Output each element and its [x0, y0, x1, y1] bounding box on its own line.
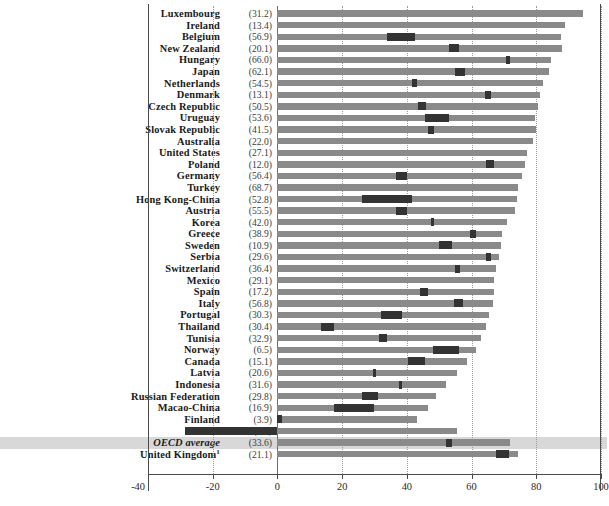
segment-marker [373, 369, 376, 377]
segment-marker [396, 172, 407, 180]
value-bar [277, 115, 534, 121]
chart-row: Hong Kong-China(52.8) [0, 194, 607, 206]
x-tick-100 [601, 474, 602, 479]
segment-marker [439, 241, 452, 249]
value-bar [277, 416, 416, 422]
segment-marker [185, 427, 277, 435]
bar-layer [148, 78, 601, 90]
value-bar [277, 34, 560, 40]
x-tick--40 [148, 474, 149, 479]
x-tick-label-80: 80 [531, 481, 541, 493]
chart-row: Czech Republic(50.5) [0, 101, 607, 113]
chart-row: United States(27.1) [0, 147, 607, 159]
chart-row: Turkey(68.7) [0, 182, 607, 194]
bar-layer [148, 356, 601, 368]
bar-layer [148, 298, 601, 310]
segment-marker [334, 404, 374, 412]
bar-layer [148, 43, 601, 55]
chart-row: Austria(55.5) [0, 205, 607, 217]
bar-layer [148, 194, 601, 206]
segment-marker [446, 439, 452, 447]
bar-layer [148, 159, 601, 171]
value-bar [277, 289, 494, 295]
bar-layer [148, 425, 601, 437]
chart-row: Korea(42.0) [0, 217, 607, 229]
axis-left-spine [148, 4, 149, 491]
value-bar [277, 277, 494, 283]
chart-row: OECD average(33.6) [0, 437, 607, 449]
value-bar [277, 92, 539, 98]
bar-layer [148, 54, 601, 66]
segment-marker [425, 114, 449, 122]
chart-row: Ireland(13.4) [0, 20, 607, 32]
value-bar [277, 370, 457, 376]
segment-marker [399, 381, 402, 389]
chart-row: Belgium(56.9) [0, 31, 607, 43]
bar-layer [148, 414, 601, 426]
chart-row: Japan(62.1) [0, 66, 607, 78]
segment-marker [496, 450, 509, 458]
bar-layer [148, 391, 601, 403]
segment-marker [486, 160, 494, 168]
value-bar [277, 381, 445, 387]
bar-layer [148, 182, 601, 194]
value-bar [277, 358, 466, 364]
bar-layer [148, 31, 601, 43]
chart-row: Iceland(3.6) [0, 425, 607, 437]
bar-layer [148, 344, 601, 356]
bar-layer [148, 379, 601, 391]
bar-layer [148, 124, 601, 136]
chart-row: Netherlands(54.5) [0, 78, 607, 90]
segment-marker [381, 311, 402, 319]
bar-layer [148, 66, 601, 78]
x-tick-20 [342, 474, 343, 479]
chart-row: Denmark(13.1) [0, 89, 607, 101]
chart-row: Canada(15.1) [0, 356, 607, 368]
chart-row: Tunisia(32.9) [0, 333, 607, 345]
value-bar [277, 219, 507, 225]
bar-layer [148, 101, 601, 113]
bar-layer [148, 89, 601, 101]
chart-row: Italy(56.8) [0, 298, 607, 310]
value-bar [277, 393, 436, 399]
chart-row: Russian Federation(29.8) [0, 391, 607, 403]
value-bar [277, 80, 542, 86]
chart-row: United Kingdom1(21.1) [0, 449, 607, 461]
segment-marker [470, 230, 476, 238]
segment-marker [485, 91, 491, 99]
x-tick-label--40: -40 [131, 481, 148, 493]
segment-marker [431, 218, 434, 226]
value-bar [277, 22, 565, 28]
chart-row: Macao-China(16.9) [0, 402, 607, 414]
value-bar [277, 242, 500, 248]
segment-marker [362, 392, 378, 400]
chart-row: Uruguay(53.6) [0, 112, 607, 124]
bar-layer [148, 147, 601, 159]
chart-row: Sweden(10.9) [0, 240, 607, 252]
value-bar [277, 254, 499, 260]
bar-layer [148, 402, 601, 414]
chart-row: Australia(22.0) [0, 136, 607, 148]
chart-row: New Zealand(20.1) [0, 43, 607, 55]
segment-marker [454, 299, 464, 307]
segment-marker [408, 357, 424, 365]
x-tick-label-0: 0 [275, 481, 280, 493]
bar-layer [148, 112, 601, 124]
value-bar [277, 103, 537, 109]
x-tick--20 [213, 474, 214, 479]
value-bar [277, 428, 457, 434]
segment-marker [506, 56, 511, 64]
chart-row: Norway(6.5) [0, 344, 607, 356]
bar-layer [148, 333, 601, 345]
x-tick-80 [536, 474, 537, 479]
value-bar [277, 126, 536, 132]
bar-layer [148, 367, 601, 379]
x-tick-60 [472, 474, 473, 479]
segment-marker [428, 126, 434, 134]
bar-layer [148, 20, 601, 32]
x-tick-label-60: 60 [466, 481, 476, 493]
segment-marker [420, 288, 428, 296]
chart-row: Switzerland(36.4) [0, 263, 607, 275]
chart-rows: Luxembourg(31.2)Ireland(13.4)Belgium(56.… [0, 8, 607, 460]
